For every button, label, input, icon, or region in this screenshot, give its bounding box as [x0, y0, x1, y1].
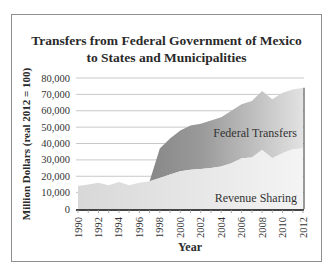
y-tick-label: 0: [65, 204, 70, 215]
x-tick-label: 1998: [154, 217, 165, 238]
x-tick-label: 1996: [134, 217, 145, 238]
x-tick-label: 2004: [216, 216, 227, 238]
y-tick-label: 70,000: [41, 89, 70, 100]
y-tick-label: 20,000: [41, 171, 70, 182]
y-tick-label: 80,000: [41, 73, 70, 84]
x-tick-label: 2012: [298, 217, 309, 238]
y-axis-ticks: 010,00020,00030,00040,00050,00060,00070,…: [41, 73, 70, 215]
y-tick-label: 30,000: [41, 154, 70, 165]
x-tick-label: 2010: [277, 217, 288, 238]
x-axis-ticks: 1990199219941996199820002002200420062008…: [73, 210, 309, 238]
y-tick-label: 40,000: [41, 138, 70, 149]
y-tick-label: 10,000: [41, 187, 70, 198]
x-tick-label: 2008: [257, 217, 268, 238]
x-tick-label: 2000: [175, 217, 186, 238]
x-tick-label: 1992: [93, 217, 104, 238]
x-tick-label: 2002: [195, 217, 206, 238]
plot-area: 010,00020,00030,00040,00050,00060,00070,…: [0, 0, 333, 275]
revenue-sharing-label: Revenue Sharing: [215, 191, 297, 205]
x-tick-label: 1990: [73, 217, 84, 238]
y-tick-label: 60,000: [41, 105, 70, 116]
x-tick-label: 2006: [236, 217, 247, 238]
x-tick-label: 1994: [113, 216, 124, 238]
federal-transfers-label: Federal Transfers: [213, 126, 297, 140]
y-tick-label: 50,000: [41, 122, 70, 133]
